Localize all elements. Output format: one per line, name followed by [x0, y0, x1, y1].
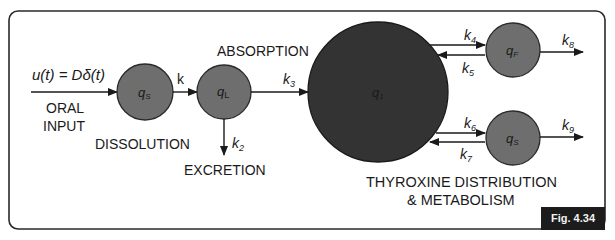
absorption-label: ABSORPTION [217, 43, 309, 59]
dissolution-label: DISSOLUTION [95, 136, 190, 152]
rate-k8-label: k8 [562, 32, 574, 50]
distribution-label-line1: THYROXINE DISTRIBUTION [366, 174, 557, 190]
rate-k4-label: k4 [464, 27, 476, 45]
distribution-label-line2: & METABOLISM [407, 192, 515, 208]
rate-k6-label: k6 [464, 115, 476, 133]
rate-k-label: k [177, 71, 185, 87]
rate-k3-label: k3 [283, 71, 295, 89]
excretion-label: EXCRETION [184, 162, 266, 178]
rate-k7-label: k7 [460, 146, 473, 164]
figure-label-badge: Fig. 4.34 [541, 207, 605, 230]
input-label: INPUT [43, 118, 85, 134]
oral-label: ORAL [46, 100, 84, 116]
rate-k9-label: k9 [562, 117, 574, 135]
rate-k5-label: k5 [462, 60, 475, 78]
compartment-diagram: u(t) = Dδ(t) ORAL INPUT qS k qL k2 DISSO… [0, 0, 615, 240]
input-equation: u(t) = Dδ(t) [32, 66, 105, 83]
rate-k2-label: k2 [232, 135, 244, 153]
